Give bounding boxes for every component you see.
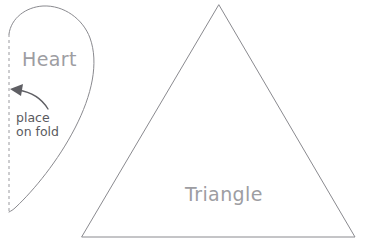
heart-label: Heart <box>22 48 77 70</box>
place-on-fold-note-line-1: place <box>16 110 50 125</box>
triangle-label: Triangle <box>184 183 263 205</box>
place-on-fold-note-line-2: on fold <box>16 124 59 139</box>
place-on-fold-arrowhead-icon <box>10 84 23 96</box>
heart-outline <box>9 6 94 212</box>
pattern-diagram: Heart place on fold Triangle <box>0 0 370 247</box>
place-on-fold-arrow-icon <box>18 90 48 109</box>
